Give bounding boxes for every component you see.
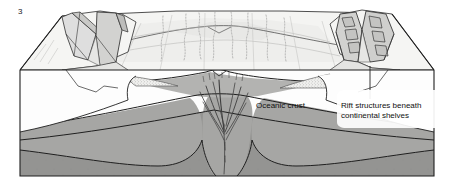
label-rift-structures: Rift structures beneath continental shel…: [341, 101, 421, 121]
figure-root: 3: [0, 0, 453, 183]
label-oceanic-crust: Oceanic crust: [256, 101, 305, 111]
block-diagram: [0, 0, 453, 183]
